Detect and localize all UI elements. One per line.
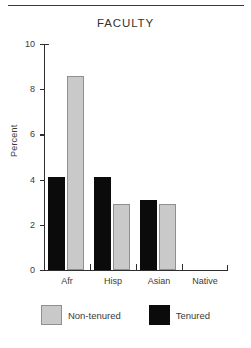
- y-tick-10: 10: [40, 44, 45, 45]
- legend-label-tenured: Tenured: [176, 310, 210, 321]
- y-tick-label-2: 2: [30, 220, 35, 230]
- x-group-tick-1: [90, 264, 91, 271]
- plot-area: 0246810 AfrHispAsianNative: [44, 44, 228, 270]
- x-axis-label-afr: Afr: [61, 276, 73, 286]
- y-tick-label-0: 0: [30, 265, 35, 275]
- bar-asian-non-tenured: [159, 204, 176, 270]
- y-axis-line: [44, 44, 45, 270]
- gray-swatch-icon: [41, 305, 62, 325]
- y-tick-label-10: 10: [25, 39, 35, 49]
- y-axis-title: Percent: [9, 125, 19, 157]
- x-group-tick-2: [136, 264, 137, 271]
- x-group-tick-3: [182, 264, 183, 271]
- chart-legend: Non-tenured Tenured: [0, 305, 251, 325]
- bar-afr-non-tenured: [67, 76, 84, 270]
- legend-item-tenured: Tenured: [149, 305, 210, 325]
- y-tick-label-4: 4: [30, 175, 35, 185]
- y-tick-8: 8: [40, 89, 45, 90]
- x-axis-right-cap: [227, 265, 228, 271]
- x-axis-label-hisp: Hisp: [104, 276, 122, 286]
- x-axis-label-asian: Asian: [148, 276, 171, 286]
- bar-asian-tenured: [140, 200, 157, 270]
- chart-title: FACULTY: [0, 17, 251, 29]
- y-tick-label-6: 6: [30, 129, 35, 139]
- legend-label-non-tenured: Non-tenured: [68, 310, 121, 321]
- legend-item-non-tenured: Non-tenured: [41, 305, 121, 325]
- y-tick-2: 2: [40, 225, 45, 226]
- faculty-bar-chart-figure: FACULTY Percent 0246810 AfrHispAsianNati…: [0, 0, 251, 348]
- bar-hisp-non-tenured: [113, 204, 130, 270]
- y-tick-6: 6: [40, 134, 45, 135]
- y-tick-label-8: 8: [30, 84, 35, 94]
- black-swatch-icon: [149, 305, 170, 325]
- x-axis-label-native: Native: [192, 276, 218, 286]
- bar-hisp-tenured: [94, 177, 111, 270]
- top-divider-rule: [8, 5, 244, 6]
- y-tick-4: 4: [40, 180, 45, 181]
- bar-afr-tenured: [48, 177, 65, 270]
- y-tick-0: 0: [40, 270, 45, 271]
